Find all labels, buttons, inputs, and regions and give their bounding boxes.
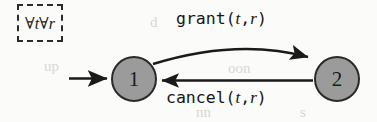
open-paren: ( — [226, 9, 236, 28]
state-node-1-label: 1 — [129, 69, 140, 90]
transition-edge-grant — [153, 49, 308, 64]
argument-r: r — [250, 9, 257, 28]
state-diagram-figure: d up oon nn s ∀t∀r 1 2 grant(t,r) cancel… — [0, 0, 377, 122]
transition-label-cancel: cancel(t,r) — [166, 88, 267, 108]
state-node-2[interactable]: 2 — [314, 56, 360, 102]
close-paren: ) — [257, 88, 267, 107]
open-paren: ( — [226, 88, 236, 107]
state-node-2-label: 2 — [332, 69, 343, 90]
transition-name-grant: grant — [176, 9, 226, 28]
transition-label-grant: grant(t,r) — [176, 9, 267, 29]
argument-r: r — [250, 88, 257, 107]
transition-name-cancel: cancel — [166, 88, 226, 107]
comma: , — [240, 88, 250, 107]
state-node-1[interactable]: 1 — [111, 56, 157, 102]
comma: , — [240, 9, 250, 28]
close-paren: ) — [257, 9, 267, 28]
